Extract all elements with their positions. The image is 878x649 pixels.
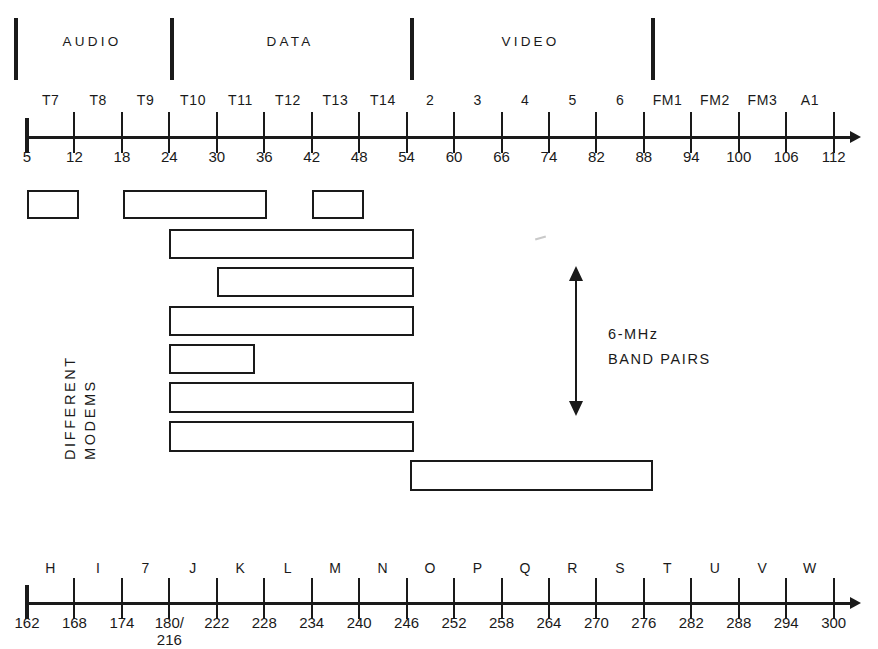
side-label-line2: MODEMS	[82, 379, 98, 460]
top-axis-tick	[548, 112, 550, 137]
band-pair-label-line2: BAND PAIRS	[608, 347, 711, 372]
top-axis-tick-value: 18	[96, 148, 148, 165]
bottom-axis-tick	[73, 578, 75, 603]
top-axis-tick-value: 24	[143, 148, 195, 165]
modem-bar-row2-seg1	[169, 229, 414, 259]
modem-bar-row8-seg1	[410, 460, 653, 491]
modem-bar-row6-seg1	[169, 382, 414, 413]
spectrum-allocation-diagram: AUDIO DATA VIDEO T7T8T9T10T11T12T13T1423…	[0, 0, 878, 649]
top-axis-tick-value: 106	[760, 148, 812, 165]
modem-bar-row1-seg1	[27, 190, 79, 219]
band-pair-arrow-shaft	[575, 280, 577, 402]
top-axis-tick-value: 5	[1, 148, 53, 165]
top-axis-tick	[216, 112, 218, 137]
top-axis-tick	[121, 112, 123, 137]
bottom-axis-tick	[501, 578, 503, 603]
modem-bar-row1-seg2	[123, 190, 267, 219]
band-pair-arrow-up-icon	[569, 266, 583, 281]
top-axis-tick-value: 36	[238, 148, 290, 165]
bottom-axis-tick	[833, 578, 835, 603]
top-axis-tick	[263, 112, 265, 137]
top-axis-channel-name: A1	[782, 92, 838, 108]
bottom-axis-tick	[453, 578, 455, 603]
category-separator-4	[651, 18, 655, 80]
top-axis-tick	[643, 112, 645, 137]
scan-artifact-speck	[535, 236, 546, 241]
top-axis-tick	[501, 112, 503, 137]
modem-bar-row1-seg3	[312, 190, 364, 219]
category-label-data: DATA	[170, 34, 410, 49]
top-axis-tick-value: 42	[286, 148, 338, 165]
bottom-axis-tick	[406, 578, 408, 603]
top-axis-tick-value: 82	[570, 148, 622, 165]
top-axis-tick	[406, 112, 408, 137]
category-label-video: VIDEO	[410, 34, 651, 49]
top-axis-tick	[738, 112, 740, 137]
top-axis-tick	[785, 112, 787, 137]
bottom-axis-tick	[168, 578, 170, 603]
category-separator-2	[170, 18, 174, 80]
modem-bar-row3-seg1	[217, 267, 414, 297]
top-axis-tick-value: 60	[428, 148, 480, 165]
bottom-axis-tick	[311, 578, 313, 603]
bottom-axis-tick	[263, 578, 265, 603]
top-axis-tick-value: 74	[523, 148, 575, 165]
bottom-axis-tick	[738, 578, 740, 603]
top-axis-tick	[358, 112, 360, 137]
bottom-axis-tick-value: 300	[806, 614, 862, 631]
top-axis-tick-value: 12	[48, 148, 100, 165]
top-axis-tick-value: 30	[191, 148, 243, 165]
top-axis-tick-value: 66	[476, 148, 528, 165]
category-label-audio: AUDIO	[14, 34, 170, 49]
top-axis-tick-value: 94	[665, 148, 717, 165]
modem-bar-row7-seg1	[169, 421, 414, 452]
bottom-axis-arrow-icon	[850, 597, 861, 609]
top-axis-arrow-icon	[850, 131, 861, 143]
bottom-axis-channel-name: W	[782, 560, 838, 576]
bottom-axis-tick	[785, 578, 787, 603]
top-axis-tick-value: 88	[618, 148, 670, 165]
top-axis-tick	[453, 112, 455, 137]
bottom-axis-tick	[216, 578, 218, 603]
category-separator-3	[410, 18, 414, 80]
bottom-axis-tick	[121, 578, 123, 603]
modem-bar-row5-seg1	[169, 344, 255, 374]
top-axis-tick-value: 100	[713, 148, 765, 165]
top-axis-tick-value: 112	[808, 148, 860, 165]
top-axis-tick	[690, 112, 692, 137]
top-axis-tick	[311, 112, 313, 137]
top-axis-tick-value: 54	[381, 148, 433, 165]
bottom-axis-tick-value-secondary: 216	[141, 631, 197, 648]
top-axis-tick	[595, 112, 597, 137]
top-axis-tick-value: 48	[333, 148, 385, 165]
modem-bar-row4-seg1	[169, 306, 414, 336]
top-axis-line	[27, 136, 852, 139]
band-pair-label-line1: 6-MHz	[608, 322, 659, 347]
bottom-axis-line	[27, 602, 852, 605]
top-axis-tick	[168, 112, 170, 137]
band-pair-arrow-down-icon	[569, 401, 583, 416]
bottom-axis-tick	[358, 578, 360, 603]
top-axis-tick	[833, 112, 835, 137]
category-separator-1	[14, 18, 18, 80]
bottom-axis-tick	[643, 578, 645, 603]
bottom-axis-tick	[690, 578, 692, 603]
bottom-axis-tick	[595, 578, 597, 603]
bottom-axis-tick	[548, 578, 550, 603]
top-axis-tick	[73, 112, 75, 137]
side-label-line1: DIFFERENT	[62, 355, 78, 460]
